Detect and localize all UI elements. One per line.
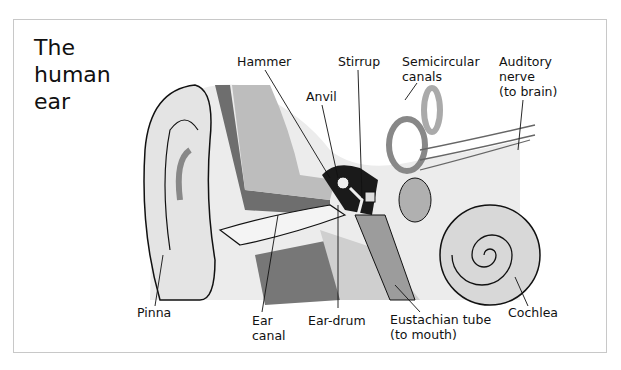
label-pinna: Pinna: [137, 305, 171, 320]
label-line: (to brain): [499, 84, 557, 99]
label-line: Auditory: [499, 54, 557, 69]
label-anvil: Anvil: [306, 89, 337, 104]
label-ear-canal: Ear canal: [252, 313, 286, 343]
label-line: nerve: [499, 69, 557, 84]
label-line: Semicircular: [402, 54, 480, 69]
label-stirrup: Stirrup: [338, 54, 380, 69]
label-ear-drum: Ear-drum: [308, 313, 366, 328]
leader-semicircular: [405, 83, 417, 100]
label-line: canal: [252, 328, 286, 343]
label-auditory-nerve: Auditory nerve (to brain): [499, 54, 557, 99]
cochlea-shape: [440, 205, 540, 305]
label-line: Ear: [252, 313, 286, 328]
label-line: canals: [402, 69, 480, 84]
label-eustachian-tube: Eustachian tube (to mouth): [390, 312, 491, 342]
label-cochlea: Cochlea: [508, 305, 558, 320]
label-line: Eustachian tube: [390, 312, 491, 327]
label-hammer: Hammer: [237, 54, 291, 69]
pinna-shape: [144, 85, 215, 300]
label-semicircular-canals: Semicircular canals: [402, 54, 480, 84]
label-line: (to mouth): [390, 327, 491, 342]
